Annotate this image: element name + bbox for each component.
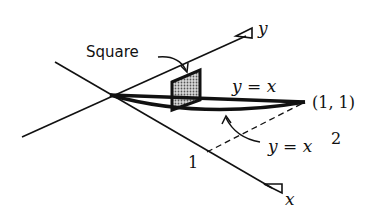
y-axis-label: y	[257, 18, 268, 38]
diagram-canvas: y x Square y = x (1, 1) y = x 2 1	[0, 0, 388, 218]
y-equals-x-squared-label: y = x	[267, 136, 313, 156]
parabola-pointer-arrow-icon	[226, 118, 260, 142]
square-label: Square	[86, 43, 139, 61]
x-axis-label: x	[285, 189, 295, 209]
point-label: (1, 1)	[312, 93, 355, 112]
y-equals-x-label: y = x	[231, 76, 277, 96]
y-axis-arrow-icon	[236, 28, 252, 38]
tick-one-label: 1	[188, 153, 198, 172]
square-slice	[172, 70, 200, 110]
x-axis-arrow-icon	[264, 184, 282, 193]
region-curves	[110, 95, 305, 110]
exponent-label: 2	[331, 129, 341, 148]
square-pointer-arrow-icon	[158, 57, 186, 70]
